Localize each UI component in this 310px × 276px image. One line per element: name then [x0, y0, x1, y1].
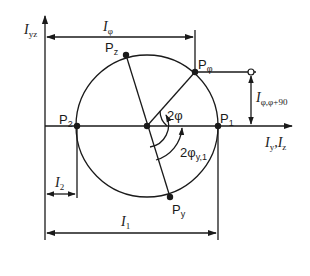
open-marker: [248, 69, 254, 75]
two-phi-arc: [160, 111, 167, 126]
pz-label: Pz: [105, 40, 119, 57]
center-point: [144, 123, 150, 129]
py-label: Py: [172, 202, 186, 219]
i-2-label: I2: [54, 175, 64, 192]
i-phi-phi90-label: Iφ,φ+90: [255, 90, 288, 107]
mohr-circle-diagram: Iyz Iφ Pz Pφ P2 P1 Py 2φ 2φy,1 Iφ,φ+90 I…: [0, 0, 310, 276]
i-phi-label: Iφ: [102, 19, 113, 36]
two-phi-label: 2φ: [167, 108, 183, 123]
two-phi-y1-arc: [156, 128, 182, 160]
two-phi-y1-label: 2φy,1: [180, 145, 207, 162]
iyz-axis-label: Iyz: [23, 22, 37, 39]
p2-label: P2: [59, 112, 73, 129]
pphi-label: Pφ: [198, 57, 213, 74]
point-pz: [123, 52, 129, 58]
i-1-label: I1: [120, 214, 130, 231]
point-py: [167, 194, 173, 200]
p1-label: P1: [220, 111, 234, 128]
diagram-canvas: Iyz Iφ Pz Pφ P2 P1 Py 2φ 2φy,1 Iφ,φ+90 I…: [0, 0, 310, 276]
iy-iz-axis-label: Iy,Iz: [264, 135, 286, 152]
point-p2: [74, 123, 80, 129]
